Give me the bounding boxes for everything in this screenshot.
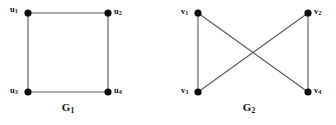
graph-g2: v1 v2 v3 v4 G2	[181, 6, 322, 115]
vertex-label-u2: u2	[114, 6, 122, 16]
vertex-u4[interactable]	[104, 88, 111, 95]
vertex-v2[interactable]	[304, 9, 311, 16]
graph-g1: u1 u2 u3 u4 G1	[10, 4, 122, 115]
vertex-u3[interactable]	[24, 88, 31, 95]
vertex-label-v2: v2	[314, 6, 322, 16]
vertex-label-v1: v1	[181, 6, 189, 16]
vertex-label-u3: u3	[10, 85, 18, 95]
vertex-u1[interactable]	[24, 9, 31, 16]
g2-edges	[198, 13, 308, 92]
vertex-v3[interactable]	[194, 88, 201, 95]
graph-canvas: u1 u2 u3 u4 G1 v1 v2	[0, 0, 336, 125]
vertex-u2[interactable]	[104, 9, 111, 16]
graph-caption-g1: G1	[62, 101, 75, 115]
vertex-label-v3: v3	[181, 85, 189, 95]
vertex-label-v4: v4	[314, 85, 322, 95]
vertex-v1[interactable]	[194, 9, 201, 16]
g1-vertex-labels: u1 u2 u3 u4	[10, 4, 122, 95]
vertex-label-u1: u1	[10, 4, 18, 14]
graph-caption-g2: G2	[243, 101, 256, 115]
g1-edges	[28, 13, 108, 92]
g1-vertices	[24, 9, 111, 95]
graph-figure: u1 u2 u3 u4 G1 v1 v2	[0, 0, 336, 125]
vertex-v4[interactable]	[304, 88, 311, 95]
vertex-label-u4: u4	[114, 85, 122, 95]
